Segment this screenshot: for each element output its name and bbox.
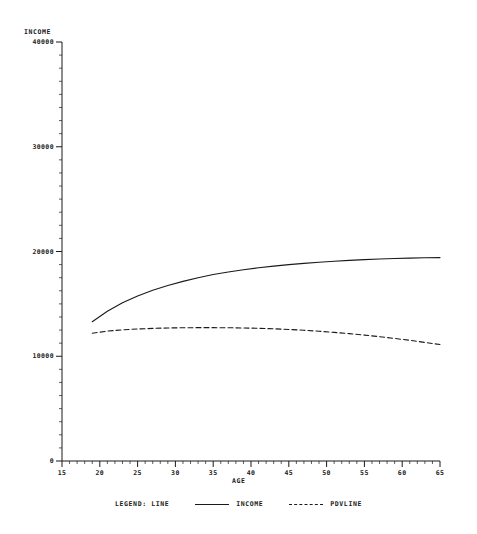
x-tick-label: 50: [312, 469, 342, 477]
x-tick-label: 35: [198, 469, 228, 477]
x-tick-label: 55: [349, 469, 379, 477]
x-tick-label: 40: [236, 469, 266, 477]
x-tick-label: 65: [425, 469, 455, 477]
chart-canvas: INCOME 010000200003000040000 15202530354…: [0, 0, 477, 534]
y-tick-label: 0: [12, 457, 54, 465]
legend-line-solid-icon: [195, 504, 229, 505]
x-axis-title: AGE: [232, 477, 246, 485]
plot-svg: [0, 0, 477, 534]
x-tick-label: 20: [85, 469, 115, 477]
y-tick-label: 40000: [12, 38, 54, 46]
y-tick-label: 20000: [12, 248, 54, 256]
legend-entry-pdvline: PDVLINE: [289, 500, 362, 508]
y-tick-label: 10000: [12, 352, 54, 360]
y-axis-title: INCOME: [24, 28, 51, 36]
data-series-group: [92, 258, 440, 345]
legend-label-pdvline: PDVLINE: [330, 500, 362, 508]
axes-group: [56, 42, 440, 467]
legend-label-income: INCOME: [236, 500, 263, 508]
legend-entry-income: INCOME: [195, 500, 263, 508]
legend-title: LEGEND: LINE: [115, 500, 169, 508]
x-tick-label: 15: [47, 469, 77, 477]
chart-legend: LEGEND: LINE INCOME PDVLINE: [0, 497, 477, 511]
x-tick-label: 25: [123, 469, 153, 477]
x-tick-label: 60: [387, 469, 417, 477]
y-tick-label: 30000: [12, 143, 54, 151]
series-line-income: [92, 258, 440, 322]
legend-line-dashed-icon: [289, 504, 323, 505]
x-tick-label: 30: [160, 469, 190, 477]
series-line-pdvline: [92, 328, 440, 345]
x-tick-label: 45: [274, 469, 304, 477]
